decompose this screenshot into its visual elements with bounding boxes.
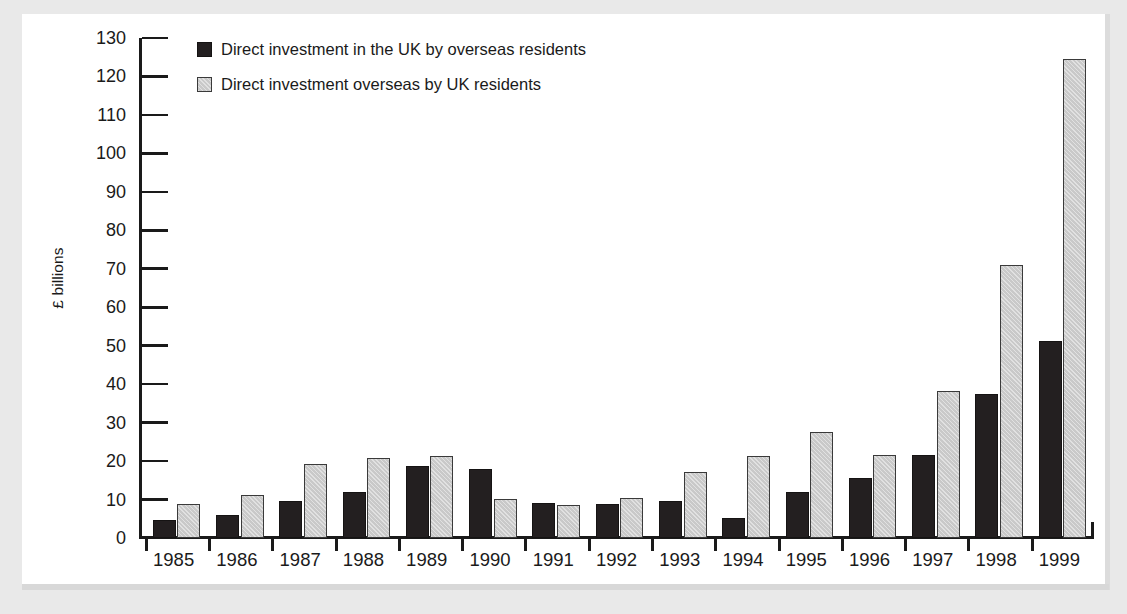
bar-1997-series1[interactable] [912, 455, 935, 538]
bar-1996-series1[interactable] [849, 478, 872, 538]
y-axis-tick-label: 110 [80, 106, 126, 124]
bar-1986-series2[interactable] [241, 495, 264, 538]
y-axis-tick-mark [142, 114, 168, 117]
bar-1985-series1[interactable] [153, 520, 176, 538]
bar-1997-series2[interactable] [937, 391, 960, 538]
bar-group [585, 38, 648, 538]
bar-1998-series1[interactable] [975, 394, 998, 538]
bar-group [964, 38, 1027, 538]
y-axis-tick-label: 90 [80, 183, 126, 201]
bar-1985-series2[interactable] [177, 504, 200, 538]
x-axis-right-cap [1091, 522, 1094, 539]
bar-1992-series1[interactable] [596, 504, 619, 538]
bar-group [205, 38, 268, 538]
y-axis-tick-mark [142, 75, 168, 78]
bar-1991-series2[interactable] [557, 505, 580, 538]
y-axis-tick-label: 40 [80, 375, 126, 393]
y-axis-tick-label: 20 [80, 452, 126, 470]
y-axis-tick-mark [142, 421, 168, 424]
legend-item-2[interactable]: Direct investment overseas by UK residen… [197, 75, 586, 94]
bar-group [901, 38, 964, 538]
y-axis-tick-label: 30 [80, 414, 126, 432]
y-axis-tick-mark [142, 37, 168, 40]
x-axis-tick-label-1999: 1999 [1019, 549, 1099, 571]
y-axis-tick-mark [142, 267, 168, 270]
bar-1990-series1[interactable] [469, 469, 492, 538]
bar-1993-series1[interactable] [659, 501, 682, 538]
bar-group [775, 38, 838, 538]
legend-swatch-icon [197, 77, 212, 92]
y-axis-tick-label: 10 [80, 491, 126, 509]
bar-1991-series1[interactable] [532, 503, 555, 538]
y-axis-tick-mark [142, 344, 168, 347]
legend-label: Direct investment in the UK by overseas … [221, 40, 586, 59]
bar-1988-series1[interactable] [343, 492, 366, 538]
bar-group [458, 38, 521, 538]
y-axis-tick-labels: 0102030405060708090100110120130 [80, 14, 126, 584]
bar-1989-series2[interactable] [430, 456, 453, 538]
plot-area [142, 38, 1091, 538]
page-shadow-right [1105, 14, 1110, 590]
y-axis-tick-label: 80 [80, 221, 126, 239]
bar-1987-series1[interactable] [279, 501, 302, 538]
legend-label: Direct investment overseas by UK residen… [221, 75, 541, 94]
chart-legend: Direct investment in the UK by overseas … [197, 40, 586, 110]
bar-1994-series2[interactable] [747, 456, 770, 538]
bar-1990-series2[interactable] [494, 499, 517, 538]
y-axis-tick-mark [142, 498, 168, 501]
chart-page: £ billions 01020304050607080901001101201… [0, 0, 1127, 614]
bar-1995-series2[interactable] [810, 432, 833, 538]
y-axis-title: £ billions [49, 198, 67, 358]
y-axis-tick-mark [142, 152, 168, 155]
bar-group [838, 38, 901, 538]
y-axis-tick-label: 70 [80, 260, 126, 278]
y-axis-tick-mark [142, 229, 168, 232]
bar-1994-series1[interactable] [722, 518, 745, 538]
y-axis-tick-label: 130 [80, 29, 126, 47]
legend-item-1[interactable]: Direct investment in the UK by overseas … [197, 40, 586, 59]
y-axis-tick-label: 120 [80, 67, 126, 85]
bar-1999-series1[interactable] [1039, 341, 1062, 538]
chart-canvas: £ billions 01020304050607080901001101201… [22, 14, 1105, 584]
plot-wrapper: £ billions 01020304050607080901001101201… [22, 14, 1105, 584]
legend-swatch-icon [197, 42, 212, 57]
y-axis-tick-label: 50 [80, 337, 126, 355]
bar-1989-series1[interactable] [406, 466, 429, 538]
y-axis-tick-mark [142, 383, 168, 386]
bar-group [648, 38, 711, 538]
bar-1998-series2[interactable] [1000, 265, 1023, 538]
bar-group [395, 38, 458, 538]
y-axis-tick-mark [142, 306, 168, 309]
bar-group [1028, 38, 1091, 538]
y-axis-tick-label: 0 [80, 529, 126, 547]
bar-group [522, 38, 585, 538]
page-shadow-bottom [22, 584, 1109, 590]
bar-group [269, 38, 332, 538]
bar-1992-series2[interactable] [620, 498, 643, 538]
bar-group [711, 38, 774, 538]
y-axis-tick-mark [142, 191, 168, 194]
bar-1987-series2[interactable] [304, 464, 327, 538]
y-axis-tick-label: 60 [80, 298, 126, 316]
bar-1999-series2[interactable] [1063, 59, 1086, 538]
y-axis-tick-label: 100 [80, 144, 126, 162]
bar-1988-series2[interactable] [367, 458, 390, 538]
bar-1996-series2[interactable] [873, 455, 896, 538]
bar-1986-series1[interactable] [216, 515, 239, 538]
bar-1995-series1[interactable] [786, 492, 809, 538]
bar-group [332, 38, 395, 538]
y-axis-tick-mark [142, 460, 168, 463]
bar-1993-series2[interactable] [684, 472, 707, 538]
